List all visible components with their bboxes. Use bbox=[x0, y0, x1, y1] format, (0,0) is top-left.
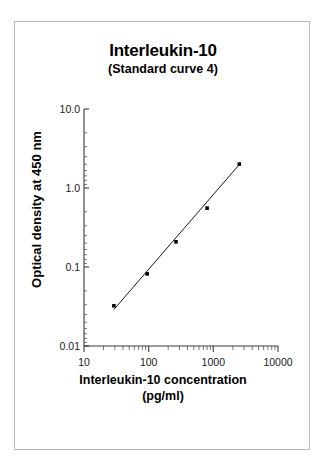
x-axis bbox=[84, 346, 278, 352]
data-point-marker bbox=[174, 240, 178, 244]
y-tick-label: 0.1 bbox=[65, 261, 80, 273]
x-tick-labels: 10 100 1000 10000 bbox=[78, 356, 293, 368]
fit-line bbox=[114, 164, 240, 309]
y-axis bbox=[84, 109, 89, 346]
data-point-marker bbox=[205, 206, 209, 210]
y-tick-label: 1.0 bbox=[65, 182, 80, 194]
x-tick-label: 10000 bbox=[263, 356, 292, 368]
y-tick-label: 0.01 bbox=[60, 340, 81, 352]
data-point-marker bbox=[238, 162, 242, 166]
data-point-marker bbox=[145, 272, 149, 276]
x-tick-label: 1000 bbox=[202, 356, 226, 368]
y-tick-labels: 10.0 1.0 0.1 0.01 bbox=[60, 103, 81, 352]
y-tick-label: 10.0 bbox=[60, 103, 81, 115]
x-axis-title-line1: Interleukin-10 concentration bbox=[15, 372, 311, 388]
x-axis-title-block: Interleukin-10 concentration (pg/ml) bbox=[15, 372, 311, 404]
figure-frame: Interleukin-10 (Standard curve 4) Optica… bbox=[14, 21, 310, 450]
data-point-marker bbox=[112, 304, 116, 308]
x-tick-label: 10 bbox=[78, 356, 90, 368]
x-tick-label: 100 bbox=[140, 356, 158, 368]
x-axis-title-line2: (pg/ml) bbox=[15, 388, 311, 404]
